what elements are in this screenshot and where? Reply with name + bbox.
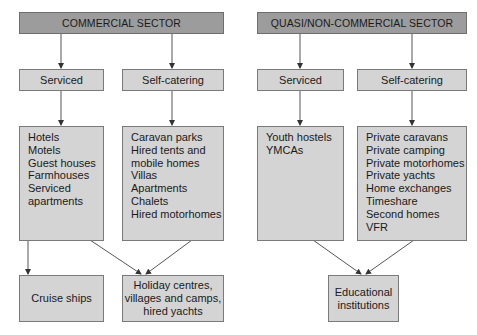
list-item: mobile homes [131, 157, 223, 170]
educational-institutions-box: Educational institutions [328, 275, 399, 322]
educational-line: institutions [338, 299, 390, 312]
commercial-serviced-list: Hotels Motels Guest houses Farmhouses Se… [19, 126, 104, 241]
quasi-self-catering-box: Self-catering [357, 69, 467, 91]
list-item: Hired tents and [131, 144, 223, 157]
quasi-sector-label: QUASI/NON-COMMERCIAL SECTOR [271, 17, 453, 29]
commercial-self-catering-label: Self-catering [142, 74, 204, 86]
commercial-serviced-box: Serviced [19, 69, 104, 91]
quasi-self-catering-label: Self-catering [381, 74, 443, 86]
list-item: Private caravans [366, 131, 466, 144]
educational-line: Educational [335, 286, 393, 299]
commercial-sector-header: COMMERCIAL SECTOR [19, 12, 224, 34]
list-item: Chalets [131, 195, 223, 208]
list-item: Youth hostels [266, 131, 343, 144]
list-item: VFR [366, 221, 466, 234]
list-item: Private yachts [366, 169, 466, 182]
quasi-serviced-label: Serviced [279, 74, 322, 86]
cruise-ships-label: Cruise ships [31, 292, 92, 305]
list-item: Apartments [131, 182, 223, 195]
quasi-serviced-box: Serviced [257, 69, 344, 91]
commercial-self-catering-list: Caravan parks Hired tents and mobile hom… [122, 126, 224, 241]
quasi-sector-header: QUASI/NON-COMMERCIAL SECTOR [257, 12, 467, 34]
list-item: Private motorhomes [366, 157, 466, 170]
list-item: Caravan parks [131, 131, 223, 144]
list-item: Second homes [366, 208, 466, 221]
holiday-centres-box: Holiday centres, villages and camps, hir… [122, 275, 224, 322]
list-item: apartments [28, 195, 103, 208]
quasi-serviced-list: Youth hostels YMCAs [257, 126, 344, 241]
list-item: Hired motorhomes [131, 208, 223, 221]
cruise-ships-box: Cruise ships [19, 275, 104, 322]
commercial-serviced-label: Serviced [40, 74, 83, 86]
commercial-sector-label: COMMERCIAL SECTOR [62, 17, 181, 29]
holiday-line: Holiday centres, [134, 279, 213, 292]
holiday-line: hired yachts [143, 305, 202, 318]
commercial-self-catering-box: Self-catering [122, 69, 224, 91]
list-item: Timeshare [366, 195, 466, 208]
quasi-self-catering-list: Private caravans Private camping Private… [357, 126, 467, 241]
list-item: Motels [28, 144, 103, 157]
list-item: Guest houses [28, 157, 103, 170]
list-item: Farmhouses [28, 169, 103, 182]
holiday-line: villages and camps, [125, 292, 222, 305]
list-item: Hotels [28, 131, 103, 144]
list-item: YMCAs [266, 144, 343, 157]
list-item: Private camping [366, 144, 466, 157]
list-item: Villas [131, 169, 223, 182]
list-item: Home exchanges [366, 182, 466, 195]
list-item: Serviced [28, 182, 103, 195]
